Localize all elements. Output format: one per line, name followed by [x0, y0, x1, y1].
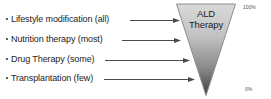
scale-label-top: 100% — [243, 4, 256, 10]
bullet-dot-icon — [6, 77, 8, 79]
list-item-label: Drug Therapy (some) — [11, 54, 94, 64]
list-item: Drug Therapy (some) — [6, 54, 94, 64]
list-item: Nutrition therapy (most) — [6, 34, 103, 44]
scale-label-bottom: 0% — [245, 86, 252, 92]
list-item-label: Transplantation (few) — [11, 73, 93, 83]
funnel-label-line2: Therapy — [173, 19, 239, 30]
list-item: Transplantation (few) — [6, 73, 93, 83]
bullet-dot-icon — [6, 18, 8, 20]
list-item-label: Nutrition therapy (most) — [11, 34, 103, 44]
bullet-dot-icon — [6, 38, 8, 40]
list-item: Lifestyle modification (all) — [6, 14, 109, 24]
ald-therapy-funnel: ALD Therapy — [173, 2, 239, 98]
funnel-label-line1: ALD — [173, 8, 239, 19]
diagram-canvas: Lifestyle modification (all) Nutrition t… — [0, 0, 271, 99]
list-item-label: Lifestyle modification (all) — [11, 14, 109, 24]
bullet-dot-icon — [6, 58, 8, 60]
